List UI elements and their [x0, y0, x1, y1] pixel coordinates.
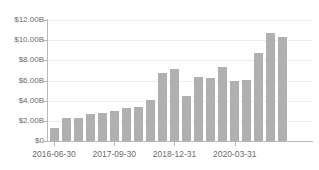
y-axis-tick-label: $8.00B: [0, 56, 44, 64]
bar[interactable]: [182, 96, 191, 141]
bar[interactable]: [242, 80, 251, 141]
bar[interactable]: [230, 81, 239, 141]
x-axis-tick-label: 2017-09-30: [93, 149, 136, 159]
x-axis-tick-mark: [174, 142, 175, 146]
x-axis-tick-mark: [54, 142, 55, 146]
bar[interactable]: [278, 37, 287, 141]
bar[interactable]: [122, 108, 131, 141]
bar[interactable]: [98, 113, 107, 141]
bar[interactable]: [146, 100, 155, 141]
x-axis-tick-label: 2020-03-31: [213, 149, 256, 159]
bar[interactable]: [134, 107, 143, 141]
bar[interactable]: [206, 78, 215, 141]
gridline: [48, 141, 313, 142]
y-axis-tick-label: $12.00B: [0, 16, 44, 24]
bar-chart-figure: $0$2.00B$4.00B$6.00B$8.00B$10.00B$12.00B…: [0, 0, 319, 170]
bar[interactable]: [110, 111, 119, 141]
y-axis-tick-label: $2.00B: [0, 117, 44, 125]
y-axis-tick-label: $6.00B: [0, 77, 44, 85]
bar[interactable]: [254, 53, 263, 141]
bar[interactable]: [50, 128, 59, 141]
bar[interactable]: [62, 118, 71, 141]
bar[interactable]: [194, 77, 203, 141]
y-axis-tick-label: $4.00B: [0, 97, 44, 105]
y-axis-tick-label: $10.00B: [0, 36, 44, 44]
bar[interactable]: [74, 118, 83, 141]
bar-series: [48, 20, 313, 141]
y-axis-tick-label: $0: [0, 137, 44, 145]
bar[interactable]: [170, 69, 179, 141]
bar[interactable]: [266, 33, 275, 141]
bar[interactable]: [86, 114, 95, 141]
x-axis-tick-mark: [114, 142, 115, 146]
x-axis-tick-mark: [235, 142, 236, 146]
x-axis-tick-label: 2016-06-30: [32, 149, 75, 159]
bar[interactable]: [158, 73, 167, 141]
bar[interactable]: [218, 67, 227, 141]
x-axis-tick-label: 2018-12-31: [153, 149, 196, 159]
plot-area: [48, 20, 313, 141]
